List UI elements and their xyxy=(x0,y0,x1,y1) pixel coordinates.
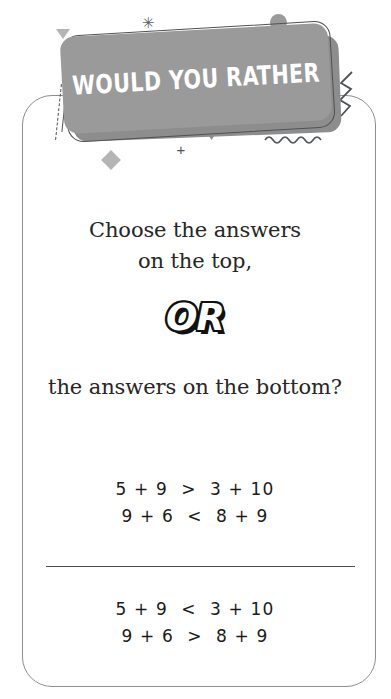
prompt-top-text: Choose the answers on the top, xyxy=(45,215,345,277)
equation-row: 9 + 6 < 8 + 9 xyxy=(45,503,345,530)
choice-option-top[interactable]: 5 + 9 > 3 + 10 9 + 6 < 8 + 9 xyxy=(45,476,345,530)
circle-icon xyxy=(270,14,287,31)
triangle-icon xyxy=(56,29,70,39)
equation-row: 9 + 6 > 8 + 9 xyxy=(45,623,345,650)
dash-icon xyxy=(242,30,256,32)
choice-option-bottom[interactable]: 5 + 9 < 3 + 10 9 + 6 > 8 + 9 xyxy=(45,596,345,650)
prompt-line-1: Choose the answers xyxy=(89,218,301,242)
sparkle-icon: ✳ xyxy=(142,16,155,29)
dash-icon xyxy=(212,30,237,33)
equation-row: 5 + 9 < 3 + 10 xyxy=(45,596,345,623)
prompt-bottom-text: the answers on the bottom? xyxy=(30,372,360,403)
or-divider-word: OR xyxy=(45,296,345,340)
prompt-line-2: on the top, xyxy=(45,246,345,277)
choice-divider xyxy=(46,566,355,567)
equation-row: 5 + 9 > 3 + 10 xyxy=(45,476,345,503)
